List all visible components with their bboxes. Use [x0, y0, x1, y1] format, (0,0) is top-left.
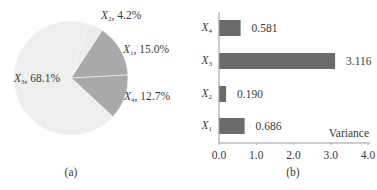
pie-label-x1: X1, 15.0%: [122, 43, 169, 57]
y-tick-label-x3: X3: [200, 54, 212, 68]
bar-value-x2: 0.190: [237, 88, 263, 100]
bar-value-x1: 0.686: [256, 120, 282, 132]
y-tick-label-x4: X4: [200, 21, 212, 35]
bar-value-x4: 0.581: [252, 22, 278, 34]
x-tick-label: 4.0: [361, 149, 376, 161]
y-tick-label-x2: X2: [200, 87, 212, 101]
bar-x1: [219, 118, 245, 134]
bar-chart: 0.581X43.116X30.190X20.686X1: [200, 20, 371, 134]
pie-label-x2: X2, 4.2%: [100, 9, 142, 23]
x-axis-label: Variance: [329, 127, 369, 139]
bar-value-x3: 3.116: [346, 55, 372, 67]
pie-label-x3: X3, 68.1%: [13, 72, 60, 86]
x-tick-label: 3.0: [324, 149, 339, 161]
bar-x4: [219, 20, 241, 36]
pie-label-x4: X4, 12.7%: [123, 90, 170, 104]
x-tick-labels: 0.01.02.03.04.0: [212, 143, 376, 161]
figure: X3, 68.1%X2, 4.2%X1, 15.0%X4, 12.7% (a) …: [0, 0, 377, 190]
x-tick-label: 2.0: [286, 149, 301, 161]
x-tick-label: 0.0: [212, 149, 227, 161]
bar-x3: [219, 53, 335, 69]
x-tick-label: 1.0: [249, 149, 264, 161]
caption-a: (a): [65, 166, 78, 179]
y-tick-label-x1: X1: [200, 119, 212, 133]
bar-x2: [219, 86, 226, 102]
caption-b: (b): [286, 166, 300, 179]
